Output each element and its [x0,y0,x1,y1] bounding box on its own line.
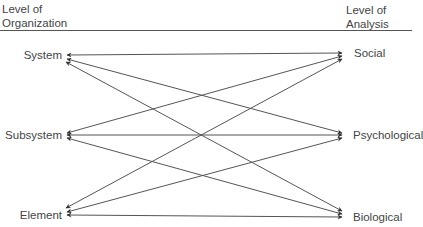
edge-system-biological [66,62,342,211]
node-psychological: Psychological [353,128,423,142]
node-system: System [2,48,62,62]
node-social: Social [354,46,385,60]
edge-system-social [67,53,342,55]
edge-element-biological [67,215,342,217]
node-element: Element [2,208,62,222]
edge-element-social [66,59,342,208]
node-biological: Biological [353,210,402,224]
node-subsystem: Subsystem [2,128,62,142]
